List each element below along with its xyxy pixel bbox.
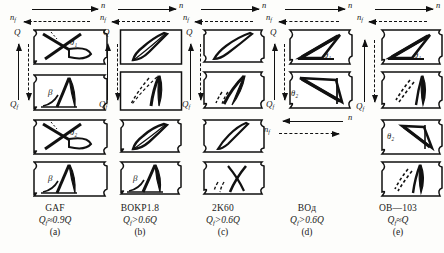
caption-c-flow: Qf>0.6Q	[178, 215, 268, 227]
panel-b-3	[119, 118, 183, 156]
arrow-head-right-icon	[169, 6, 177, 12]
arrow-head-left-icon	[194, 19, 202, 25]
caption-e-flow: Qf≈Q	[352, 215, 444, 227]
arrow-head-up-icon	[362, 39, 368, 47]
qf-arrow-line	[117, 44, 118, 100]
caption-d: ВОд Qf>0.6Q (d)	[258, 203, 356, 238]
column-a: n nf Q Qf	[0, 0, 110, 253]
nf-arrow-line-bottom	[279, 133, 339, 134]
caption-b-flow: Qf>0.6Q	[95, 215, 185, 227]
panel-a-4-angle-label: β	[48, 173, 52, 183]
nf-label: nf	[100, 13, 106, 23]
n-arrow-line-bottom	[283, 121, 343, 122]
caption-e-index: (e)	[352, 227, 444, 239]
arrow-head-down-icon	[372, 95, 378, 103]
column-d-top-arrows: n nf	[261, 4, 356, 28]
caption-c-name: 2K60	[178, 203, 268, 215]
n-arrow-line	[201, 9, 259, 10]
q-label: Q	[14, 28, 21, 37]
nf-label: nf	[266, 13, 272, 23]
panel-b-4-angle-label: β	[133, 173, 137, 183]
arrow-head-up-icon	[188, 43, 194, 51]
nf-label: nf	[357, 13, 363, 23]
q-label: Q	[186, 28, 193, 37]
n-arrow-line	[118, 9, 176, 10]
arrow-head-left-icon	[282, 118, 290, 124]
panel-c-4	[202, 160, 266, 198]
panel-b-4	[119, 160, 183, 198]
column-d: n nf Q Qf	[258, 0, 356, 253]
caption-a: GAF Qf≈0.9Q (a)	[0, 203, 110, 238]
q-label: Q	[103, 28, 110, 37]
qf-label: Qf	[10, 100, 18, 110]
panel-d-2-angle-label: θ₂	[291, 88, 298, 98]
panel-d-1	[288, 28, 354, 68]
panel-a-3-angle-label: θ₂	[70, 127, 77, 137]
panel-c-3	[202, 118, 266, 156]
nf-label: nf	[183, 13, 189, 23]
caption-e-name: ОВ—103	[352, 203, 444, 215]
n-arrow-line	[375, 9, 433, 10]
column-d-bottom-arrows: n nf	[261, 116, 356, 140]
n-arrow-line	[285, 9, 345, 10]
nf-arrow-line	[279, 21, 339, 22]
qf-arrow-line	[284, 44, 285, 100]
column-b-top-arrows: n nf	[100, 4, 188, 28]
blade-profile-figure: n nf Q Qf	[0, 0, 444, 253]
panel-e-1-angle-label: θ₁	[414, 50, 421, 60]
arrow-head-up-icon	[105, 43, 111, 51]
arrow-head-left-icon	[111, 19, 119, 25]
arrow-head-up-icon	[272, 43, 278, 51]
nf-arrow-line	[24, 21, 90, 22]
nf-arrow-line	[112, 21, 170, 22]
q-arrow-line	[18, 44, 19, 100]
panel-c-1	[202, 28, 266, 66]
caption-d-flow: Qf>0.6Q	[258, 215, 356, 227]
caption-a-name: GAF	[0, 203, 110, 215]
arrow-head-up-icon	[16, 43, 22, 51]
nf-label-bottom: nf	[264, 125, 270, 135]
caption-c-index: (c)	[178, 227, 268, 239]
arrow-head-left-icon	[368, 19, 376, 25]
caption-d-index: (d)	[258, 227, 356, 239]
qf-arrow-line	[200, 44, 201, 100]
column-b: n nf Q Qf	[95, 0, 185, 253]
arrow-head-right-icon	[426, 6, 434, 12]
column-e: n nf Qf	[352, 0, 444, 253]
caption-a-flow: Qf≈0.9Q	[0, 215, 110, 227]
panel-e-3-angle-label: θ₂	[387, 131, 394, 141]
qf-arrow-line	[374, 40, 375, 102]
panel-b-2	[119, 70, 183, 112]
nf-label: nf	[10, 13, 16, 23]
caption-b-name: BOKP1.8	[95, 203, 185, 215]
column-e-top-arrows: n nf	[355, 4, 444, 28]
qf-label: Qf	[99, 100, 107, 110]
caption-b-index: (b)	[95, 227, 185, 239]
qf-arrow-line	[28, 44, 29, 100]
column-c: n nf Q Qf	[178, 0, 268, 253]
nf-arrow-line	[195, 21, 253, 22]
qf-label: Qf	[266, 100, 274, 110]
arrow-head-left-icon	[278, 19, 286, 25]
panel-a-1-angle-label: θ₁	[70, 37, 77, 47]
qf-label: Qf	[182, 100, 190, 110]
panel-a-2-angle-label: β	[48, 87, 52, 97]
arrow-head-down-icon	[26, 93, 32, 101]
panel-d-1-angle-label: θ₁	[324, 50, 331, 60]
q-arrow-line	[107, 44, 108, 100]
arrow-head-right-icon	[338, 6, 346, 12]
panel-e-2	[380, 70, 444, 112]
caption-c: 2K60 Qf>0.6Q (c)	[178, 203, 268, 238]
nf-arrow-line	[369, 21, 427, 22]
q-arrow-line	[364, 40, 365, 102]
q-arrow-line	[274, 44, 275, 100]
panel-e-4	[380, 160, 444, 200]
qf-label: Qf	[356, 102, 364, 112]
caption-d-name: ВОд	[258, 203, 356, 215]
caption-a-index: (a)	[0, 227, 110, 239]
caption-b: BOKP1.8 Qf>0.6Q (b)	[95, 203, 185, 238]
n-label: n	[436, 1, 440, 10]
panel-b-1	[119, 28, 183, 66]
q-label: Q	[270, 28, 277, 37]
arrow-head-left-icon	[23, 19, 31, 25]
